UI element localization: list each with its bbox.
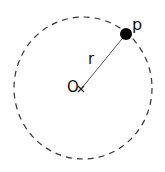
radius-label: r — [88, 52, 94, 67]
x-mark-icon — [78, 86, 84, 92]
point-label-p: p — [132, 17, 142, 33]
diagram-canvas: p r O — [0, 0, 165, 172]
point-p-dot — [120, 28, 132, 40]
center-label-o: O — [67, 80, 79, 95]
dashed-circle — [14, 17, 152, 159]
